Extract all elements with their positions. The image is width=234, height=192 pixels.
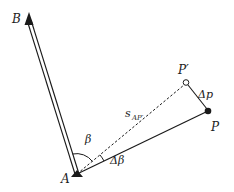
segment-ab-double-line xyxy=(27,20,79,174)
point-p-prime-open-circle-icon xyxy=(183,80,189,86)
label-p-prime: P′ xyxy=(177,63,189,77)
point-b-arrowhead-icon xyxy=(25,12,34,25)
angle-beta-arc xyxy=(73,154,93,162)
point-p-filled-circle-icon xyxy=(205,108,212,115)
label-s-main: s xyxy=(125,107,131,120)
label-s-subscript: AP′ xyxy=(131,114,144,122)
segment-ab-line-2 xyxy=(31,20,79,174)
label-beta: β xyxy=(84,133,91,146)
label-a: A xyxy=(60,172,70,186)
label-delta-p: Δp xyxy=(197,88,213,101)
label-delta-beta: Δβ xyxy=(109,154,124,167)
segment-ab-line-1 xyxy=(27,20,75,174)
label-s-ap-prime: s AP′ xyxy=(125,107,144,122)
angle-delta-beta-arc xyxy=(100,155,104,161)
label-p: P xyxy=(210,120,220,134)
segment-ap-prime-dashed xyxy=(77,85,184,174)
label-b: B xyxy=(11,12,21,26)
rotation-diagram: B A P P′ Δp β Δβ s AP′ xyxy=(0,0,234,192)
